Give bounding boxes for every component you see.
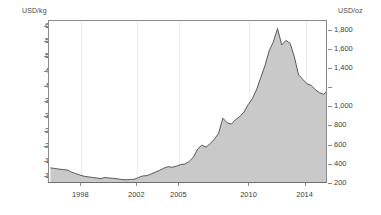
right-axis-unit-label: USD/oz: [338, 7, 363, 14]
right-axis-tick-label: 200: [334, 178, 347, 187]
right-axis-tick-mark: [328, 125, 332, 126]
x-axis-tick-mark: [80, 183, 81, 186]
right-axis-tick-mark: [328, 164, 332, 165]
right-axis-tick-label: 1,600: [334, 44, 353, 53]
x-axis-tick-mark: [305, 183, 306, 186]
left-axis-unit-label: USD/kg: [22, 7, 47, 14]
right-axis-tick-mark: [328, 106, 332, 107]
right-axis-tick-label: 400: [334, 159, 347, 168]
right-axis-tick-mark: [328, 87, 332, 88]
plot-inner: [49, 21, 326, 182]
x-axis-tick-mark: [248, 183, 249, 186]
right-axis-tick-label: 1,800: [334, 25, 353, 34]
right-axis-tick-label: 1,400: [334, 63, 353, 72]
right-axis-tick-mark: [328, 49, 332, 50]
x-axis-tick-label: 2014: [296, 190, 313, 199]
x-axis-tick-mark: [136, 183, 137, 186]
price-area-series: [49, 21, 326, 182]
right-axis-tick-label: 800: [334, 120, 347, 129]
right-axis-tick-mark: [328, 145, 332, 146]
right-axis-tick-label: 1,000: [334, 101, 353, 110]
gold-price-chart: USD/kg USD/oz 10,00015,00020,00025,00030…: [0, 0, 381, 215]
x-axis-tick-label: 2010: [240, 190, 257, 199]
area-fill: [50, 28, 326, 182]
x-axis-tick-label: 2005: [170, 190, 187, 199]
x-axis-tick-label: 2002: [128, 190, 145, 199]
right-axis-tick-mark: [328, 183, 332, 184]
right-axis-tick-mark: [328, 30, 332, 31]
x-axis-tick-mark: [178, 183, 179, 186]
plot-area: [48, 20, 327, 183]
x-axis-tick-label: 1998: [72, 190, 89, 199]
right-axis-tick-label: 600: [334, 140, 347, 149]
right-axis-tick-mark: [328, 68, 332, 69]
